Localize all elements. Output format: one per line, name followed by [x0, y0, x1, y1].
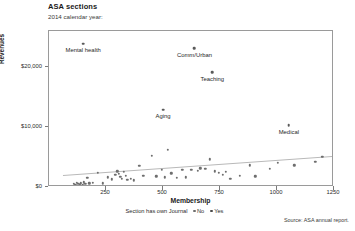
data-point [126, 179, 128, 181]
point-annotation: Comm/Urban [177, 52, 212, 58]
data-point [175, 177, 177, 179]
y-tick-mark [45, 186, 49, 187]
data-point [209, 158, 211, 160]
chart-legend: Section has own Journal NoYes [0, 208, 355, 214]
source-note: Source: ASA annual report. [284, 217, 349, 223]
data-point-labeled [193, 47, 196, 50]
data-point [107, 176, 109, 178]
chart-title: ASA sections [48, 2, 97, 11]
data-point [269, 168, 271, 170]
legend-item-no[interactable]: No [193, 208, 204, 214]
data-point [92, 182, 94, 184]
x-tick-mark [333, 186, 334, 190]
data-point [138, 165, 140, 167]
data-point [84, 183, 86, 185]
data-point [86, 177, 88, 179]
y-tick-label: $10,000 [21, 123, 42, 129]
x-tick-mark [276, 186, 277, 190]
point-annotation: Mental health [66, 47, 101, 53]
y-axis-label: Revenues [0, 4, 5, 94]
x-tick-label: 1250 [327, 189, 340, 195]
data-point [196, 170, 198, 172]
point-annotation: Medical [279, 129, 299, 135]
data-point [277, 162, 279, 164]
data-point [88, 182, 90, 184]
plot-area: Mental healthComm/UrbanTeachingAgingMedi… [48, 30, 333, 186]
data-point [199, 167, 201, 169]
legend-title: Section has own Journal [126, 208, 188, 214]
x-tick-mark [219, 186, 220, 190]
data-point [185, 176, 187, 178]
data-point-labeled [288, 124, 291, 127]
data-point [164, 176, 166, 178]
data-point [238, 174, 240, 176]
data-point [121, 177, 123, 179]
data-point [133, 179, 135, 181]
point-annotation: Aging [155, 113, 170, 119]
data-point [254, 175, 256, 177]
data-point [181, 168, 183, 170]
y-tick-label: $20,000 [21, 63, 42, 69]
data-point [225, 171, 227, 173]
data-point [314, 161, 316, 163]
data-point [129, 177, 131, 179]
data-point [111, 178, 113, 180]
x-tick-mark [105, 186, 106, 190]
data-point-labeled [82, 42, 85, 45]
data-point [167, 149, 169, 151]
data-point [218, 171, 220, 173]
x-tick-mark [162, 186, 163, 190]
legend-item-yes[interactable]: Yes [210, 208, 223, 214]
legend-swatch-icon [210, 210, 212, 212]
x-tick-label: 250 [100, 189, 110, 195]
data-point [114, 174, 116, 176]
data-point [222, 174, 224, 176]
chart-figure: ASA sections 2014 calendar year: Revenue… [0, 0, 355, 231]
x-tick-label: 1000 [270, 189, 283, 195]
data-point [204, 168, 206, 170]
data-point [229, 177, 231, 179]
trend-line [63, 156, 332, 176]
data-point [102, 182, 104, 184]
data-point [248, 164, 250, 166]
chart-subtitle: 2014 calendar year: [48, 13, 103, 20]
legend-item-label: No [197, 208, 204, 214]
x-axis-label: Membership [48, 197, 333, 204]
data-point [124, 174, 126, 176]
data-point [155, 175, 157, 177]
legend-swatch-icon [193, 210, 195, 212]
data-point [170, 172, 172, 174]
data-point-labeled [211, 71, 214, 74]
data-point [142, 174, 144, 176]
point-annotation: Teaching [200, 76, 224, 82]
data-point [190, 168, 192, 170]
x-tick-label: 500 [157, 189, 167, 195]
data-point [150, 155, 152, 157]
data-point [213, 170, 215, 172]
x-tick-label: 750 [214, 189, 224, 195]
legend-item-label: Yes [214, 208, 223, 214]
data-point-labeled [162, 108, 165, 111]
data-point [293, 164, 295, 166]
y-tick-label: $0 [36, 183, 42, 189]
